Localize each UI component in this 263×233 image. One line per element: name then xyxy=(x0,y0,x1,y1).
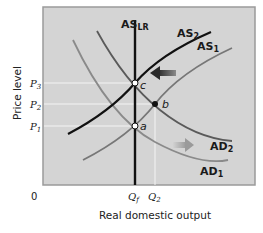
y-axis-title: Price level xyxy=(11,66,23,120)
y-tick-p1: P1 xyxy=(29,121,41,134)
y-tick-p2: P2 xyxy=(29,99,42,112)
x-tick-q2: Q2 xyxy=(148,191,161,204)
point-a-marker xyxy=(132,123,138,129)
point-b-label: b xyxy=(162,98,169,111)
point-b-marker xyxy=(152,101,158,107)
chart-canvas: c b a ASLR AS2 AS1 AD2 AD1 P3 P2 P1 Qf Q… xyxy=(0,0,263,233)
point-c-marker xyxy=(132,80,138,86)
x-axis-title: Real domestic output xyxy=(99,209,211,221)
point-a-label: a xyxy=(140,120,147,133)
plot-area xyxy=(43,7,255,185)
y-tick-p3: P3 xyxy=(29,78,42,91)
x-tick-qf: Qf xyxy=(128,191,140,204)
origin-label: 0 xyxy=(31,191,37,202)
point-c-label: c xyxy=(140,79,146,92)
